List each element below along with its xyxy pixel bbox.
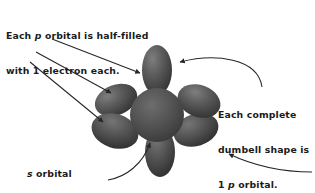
callout-top-left-line-1b: orbital is half-filled: [42, 30, 149, 41]
callout-right-line-3a: 1: [218, 179, 228, 190]
callout-bottom-left-line-1: s orbital: [27, 168, 91, 180]
callout-right-italic-p: p: [228, 179, 235, 190]
callout-dumbell-is-one-p-orbital: Each complete dumbell shape is 1 p orbit…: [218, 86, 309, 193]
figure-canvas: Each p orbital is half-filled with 1 ele…: [0, 0, 315, 193]
callout-top-left-line-2: with 1 electron each.: [6, 65, 149, 77]
callout-right-line-2: dumbell shape is: [218, 144, 309, 156]
callout-p-orbital-half-filled: Each p orbital is half-filled with 1 ele…: [6, 7, 149, 100]
callout-right-line-3b: orbital.: [235, 179, 278, 190]
callout-top-left-italic-p: p: [35, 30, 42, 41]
callout-right-line-1: Each complete: [218, 109, 309, 121]
callout-top-left-line-1: Each p orbital is half-filled: [6, 30, 149, 42]
callout-top-left-line-1a: Each: [6, 30, 35, 41]
callout-bottom-left-line-1b: orbital: [33, 168, 72, 179]
callout-right-line-3: 1 p orbital.: [218, 179, 309, 191]
callout-s-orbital-filled: s orbital filled with 2 electrons: [27, 145, 91, 193]
